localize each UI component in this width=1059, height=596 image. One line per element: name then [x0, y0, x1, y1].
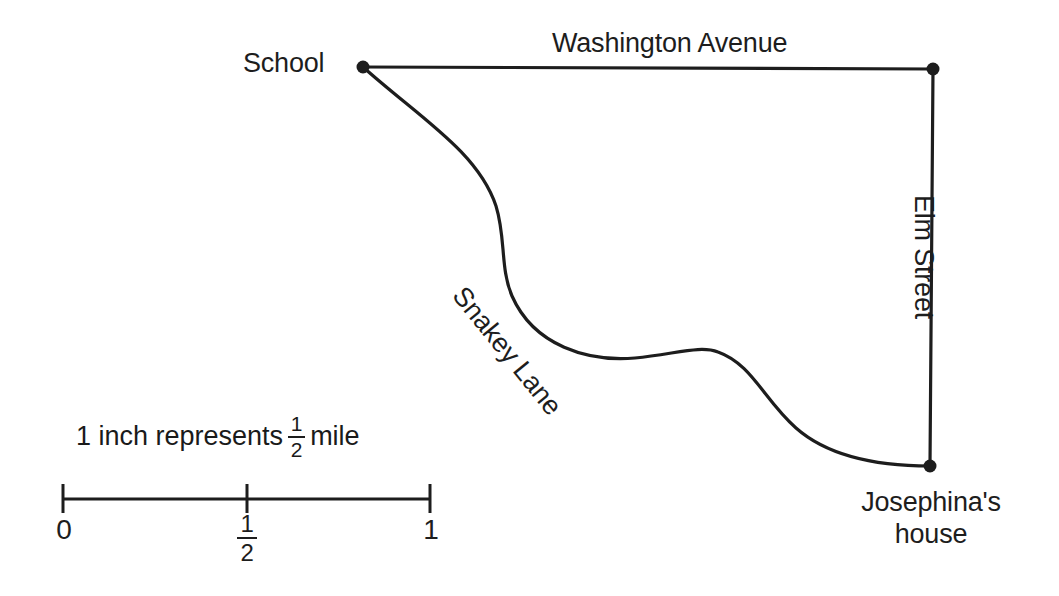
scale-caption-fraction-numerator: 1 [289, 413, 305, 435]
scale-caption-suffix: mile [310, 421, 360, 452]
scale-caption: 1 inch represents 1 2 mile [76, 412, 360, 461]
label-washington-avenue: Washington Avenue [552, 28, 787, 60]
corner-node-dot [927, 63, 940, 76]
scale-caption-prefix: 1 inch represents [76, 421, 283, 452]
josephinas-house-line-1: Josephina's [845, 487, 1017, 519]
scale-caption-fraction: 1 2 [288, 413, 305, 462]
label-josephinas-house: Josephina's house [845, 487, 1017, 551]
scale-tick-fraction-denominator: 2 [238, 540, 255, 565]
label-elm-street: Elm Street [907, 195, 939, 319]
label-school: School [243, 48, 324, 80]
washington-avenue-line [363, 67, 933, 69]
josephinas-house-line-2: house [845, 519, 1017, 551]
scale-tick-label-1: 1 [411, 513, 451, 546]
scale-tick-label-half: 1 2 [227, 511, 267, 566]
josephinas-house-node-dot [924, 460, 937, 473]
scale-tick-fraction-numerator: 1 [238, 511, 255, 536]
scale-tick-fraction: 1 2 [237, 511, 257, 566]
scale-caption-fraction-denominator: 2 [289, 439, 305, 461]
snakey-lane-path [363, 67, 930, 466]
scale-tick-label-0: 0 [44, 513, 84, 546]
school-node-dot [357, 61, 370, 74]
map-diagram: School Washington Avenue Elm Street Snak… [0, 0, 1059, 596]
